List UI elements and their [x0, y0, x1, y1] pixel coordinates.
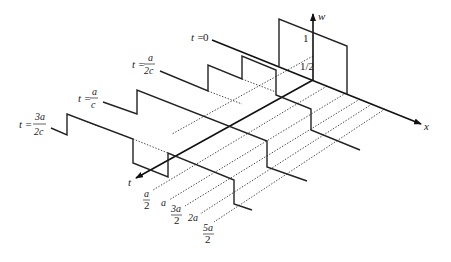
t-axis-label: t: [128, 176, 132, 188]
wave-diagram: w x t 1 1/2 t = 0 t = a 2c t = a c t = 3…: [0, 0, 451, 262]
x-label-5a-2: 5a 2: [203, 222, 214, 245]
x-label-a: a: [161, 197, 166, 208]
x-label-a-2: a 2: [143, 188, 150, 211]
dotted-guides: [67, 56, 385, 222]
time-label-0: t = 0: [191, 31, 209, 43]
svg-text:t =: t =: [19, 118, 32, 130]
time-label-a-c: t = a c: [78, 86, 98, 110]
x-axis: [212, 40, 421, 124]
svg-text:2: 2: [205, 233, 211, 245]
svg-text:2: 2: [144, 199, 150, 211]
svg-text:a: a: [148, 52, 153, 63]
svg-text:2c: 2c: [34, 126, 44, 137]
svg-text:3a: 3a: [34, 111, 45, 122]
x-label-2a: 2a: [188, 212, 198, 223]
x-label-3a-2: 3a 2: [170, 203, 182, 226]
svg-text:5a: 5a: [203, 222, 213, 233]
svg-text:3a: 3a: [170, 203, 181, 214]
time-label-3a-2c: t = 3a 2c: [19, 111, 46, 137]
svg-text:0: 0: [203, 31, 209, 43]
x-axis-label: x: [423, 120, 429, 132]
w-tick-half: 1/2: [300, 60, 314, 72]
svg-text:2: 2: [174, 214, 180, 226]
svg-text:c: c: [91, 99, 96, 110]
svg-text:t =: t =: [78, 92, 91, 104]
pulse-t-3a-2c: [51, 114, 252, 210]
svg-text:a: a: [144, 188, 149, 199]
w-axis-label: w: [318, 10, 326, 22]
time-label-a-2c: t = a 2c: [132, 52, 155, 76]
svg-text:2c: 2c: [144, 65, 154, 76]
svg-text:a: a: [92, 86, 97, 97]
w-tick-one: 1: [303, 32, 309, 44]
